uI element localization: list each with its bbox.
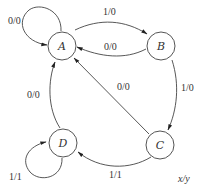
edge-label-c-to-a: 0/0 — [117, 81, 130, 92]
edge-label-b-to-a: 0/0 — [104, 41, 117, 52]
state-diagram: 0/0 1/0 0/0 1/0 0/0 1/1 0/0 1/1 A B C D … — [0, 0, 203, 193]
state-label-b: B — [156, 40, 165, 53]
edge-a-to-b — [75, 22, 147, 34]
edge-c-to-d — [78, 152, 151, 166]
state-label-a: A — [57, 40, 66, 53]
state-a: A — [48, 32, 76, 60]
edge-label-d-to-d: 1/1 — [9, 171, 22, 182]
edge-b-to-c — [168, 60, 177, 130]
state-c: C — [146, 131, 174, 159]
edge-c-to-a — [74, 58, 149, 134]
state-label-d: D — [58, 137, 68, 150]
edge-label-c-to-d: 1/1 — [109, 169, 122, 180]
edge-d-to-a — [50, 62, 60, 128]
edge-label-a-to-b: 1/0 — [103, 6, 116, 17]
edge-label-b-to-c: 1/0 — [181, 82, 194, 93]
edge-label-d-to-a: 0/0 — [27, 89, 40, 100]
state-d: D — [49, 129, 77, 157]
state-b: B — [147, 32, 175, 60]
state-label-c: C — [156, 139, 165, 152]
edge-label-a-to-a: 0/0 — [8, 15, 21, 26]
legend-label: x/y — [177, 173, 190, 184]
